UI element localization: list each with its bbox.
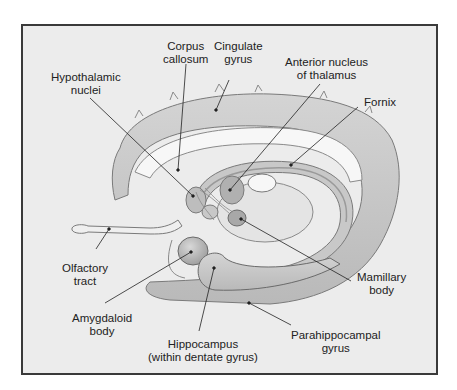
label-parahippocampal-gyrus: Parahippocampal gyrus [291, 329, 381, 355]
label-cingulate-gyrus: Cingulate gyrus [214, 40, 263, 66]
label-mamillary-body: Mamillary body [357, 271, 406, 297]
label-hypothalamic-nuclei: Hypothalamic nuclei [51, 71, 121, 97]
label-olfactory-tract: Olfactory tract [62, 262, 108, 288]
mamillary-body-shape [228, 210, 246, 226]
label-hippocampus: Hippocampus (within dentate gyrus) [148, 338, 258, 364]
label-amygdaloid-body: Amygdaloid body [72, 312, 132, 338]
label-anterior-nucleus-thalamus: Anterior nucleus of thalamus [285, 56, 368, 82]
label-corpus-callosum: Corpus callosum [163, 40, 208, 66]
label-fornix: Fornix [364, 96, 396, 109]
olfactory-tract-shape [72, 220, 182, 234]
